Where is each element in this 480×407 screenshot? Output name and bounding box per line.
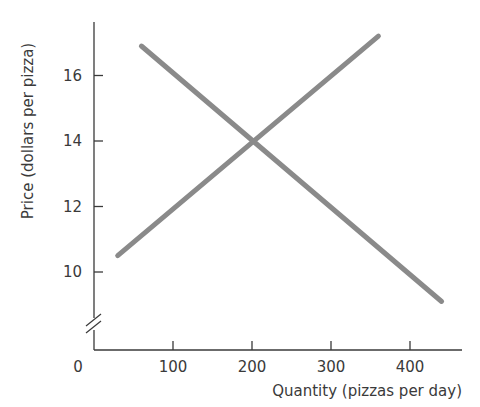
- x-axis-title: Quantity (pizzas per day): [272, 382, 462, 400]
- y-ticks: 10121416: [63, 67, 103, 282]
- axes: [86, 22, 462, 350]
- x-tick-label: 100: [159, 358, 188, 376]
- series-lines: [118, 36, 442, 301]
- y-tick-label: 16: [63, 67, 82, 85]
- y-tick-label: 14: [63, 132, 82, 150]
- x-ticks: 0100200300400: [73, 341, 424, 376]
- supply-curve: [118, 36, 379, 255]
- x-tick-label: 200: [238, 358, 267, 376]
- demand-curve: [141, 46, 441, 301]
- x-tick-label: 0: [73, 358, 83, 376]
- y-axis-title: Price (dollars per pizza): [19, 43, 37, 219]
- x-tick-label: 300: [317, 358, 346, 376]
- supply-demand-chart: 10121416 0100200300400 Quantity (pizzas …: [0, 0, 480, 407]
- y-tick-label: 10: [63, 263, 82, 281]
- y-tick-label: 12: [63, 198, 82, 216]
- x-tick-label: 400: [396, 358, 425, 376]
